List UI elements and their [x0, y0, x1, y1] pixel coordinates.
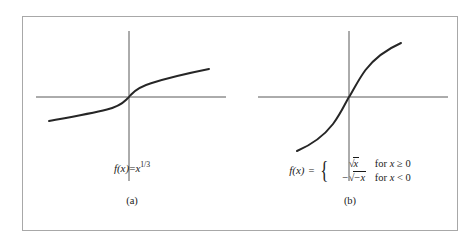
radicand-2: −x	[353, 171, 366, 183]
figure-frame: f(x)=x1/3 (a) f(x) = {	[22, 16, 458, 231]
equation-b: f(x) = { √x for x ≥ 0 −√−x for x < 0	[241, 157, 459, 183]
equation-b-equals: =	[306, 165, 316, 176]
condition-rest-2: < 0	[394, 172, 410, 183]
equation-b-lhs: f(x)	[289, 164, 304, 176]
piecewise-expr-1: √x	[333, 157, 375, 169]
piecewise-expr-2: −√−x	[333, 171, 375, 183]
left-brace: {	[321, 159, 329, 180]
radicand-1: x	[353, 157, 359, 169]
sign-prefix-2: −	[342, 172, 349, 183]
caption-b: (b)	[241, 195, 459, 206]
piecewise-condition-1: for x ≥ 0	[375, 158, 411, 169]
piecewise-condition-2: for x < 0	[375, 172, 411, 183]
figure-root: f(x)=x1/3 (a) f(x) = {	[0, 0, 471, 248]
equation-a-lhs: f(x)	[114, 162, 129, 174]
piecewise-row-1: √x for x ≥ 0	[333, 157, 411, 169]
panel-a: f(x)=x1/3 (a)	[23, 17, 241, 232]
piecewise-rows: √x for x ≥ 0 −√−x for x < 0	[333, 157, 411, 183]
equation-a-exponent: 1/3	[140, 160, 150, 169]
piecewise-row-2: −√−x for x < 0	[333, 171, 411, 183]
condition-prefix-1: for	[375, 158, 390, 169]
piecewise-equation: f(x) = { √x for x ≥ 0 −√−x for x < 0	[289, 157, 411, 183]
equation-a: f(x)=x1/3	[23, 160, 241, 174]
caption-a: (a)	[23, 195, 241, 206]
condition-prefix-2: for	[375, 172, 390, 183]
panel-b: f(x) = { √x for x ≥ 0 −√−x for x < 0	[241, 17, 459, 232]
condition-rest-1: ≥ 0	[394, 158, 410, 169]
